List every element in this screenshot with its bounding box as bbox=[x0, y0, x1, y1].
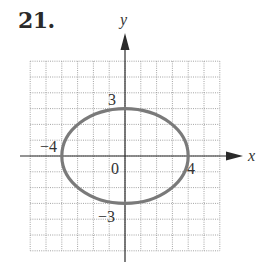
graph: y x 3 −4 0 4 −3 bbox=[0, 0, 263, 266]
x-axis-arrow-icon bbox=[226, 152, 243, 161]
tick-label-y-3: 3 bbox=[108, 91, 116, 108]
y-axis-label: y bbox=[118, 11, 128, 29]
y-axis-arrow-icon bbox=[121, 33, 130, 50]
tick-label-x-neg4: −4 bbox=[40, 138, 57, 155]
x-axis-label: x bbox=[247, 147, 255, 164]
tick-label-x-4: 4 bbox=[187, 160, 195, 177]
origin-label: 0 bbox=[111, 160, 119, 177]
tick-label-y-neg3: −3 bbox=[98, 208, 115, 225]
